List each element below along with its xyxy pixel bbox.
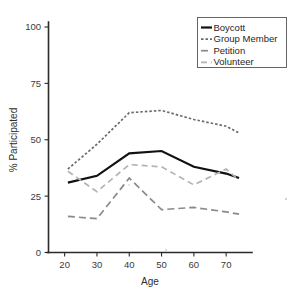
legend-label: Group Member: [214, 33, 278, 44]
x-axis-ticks: 203040506070: [59, 253, 231, 271]
y-axis-title: % Participated: [8, 108, 19, 172]
chart-figure: 0255075100 203040506070 Age % Participat…: [0, 0, 301, 303]
y-tick-label: 50: [30, 134, 41, 145]
x-tick-label: 30: [92, 259, 103, 270]
scan-speck: [285, 198, 287, 200]
scan-speck: [165, 249, 167, 251]
y-axis-ticks: 0255075100: [25, 21, 48, 258]
y-tick-label: 0: [36, 247, 41, 258]
legend-label: Petition: [214, 45, 246, 56]
x-tick-label: 50: [156, 259, 167, 270]
x-axis-title: Age: [141, 276, 159, 287]
y-tick-label: 75: [30, 78, 41, 89]
x-tick-label: 20: [59, 259, 70, 270]
y-tick-label: 25: [30, 191, 41, 202]
x-tick-label: 60: [189, 259, 200, 270]
chart-legend: BoycottGroup MemberPetitionVolunteer: [198, 18, 287, 68]
line-chart: 0255075100 203040506070 Age % Participat…: [0, 0, 301, 303]
x-tick-label: 70: [221, 259, 232, 270]
legend-label: Volunteer: [214, 56, 254, 67]
series-line-group-member: [68, 110, 239, 169]
scan-speck: [128, 184, 130, 186]
data-series-group: [68, 110, 239, 218]
y-tick-label: 100: [25, 21, 41, 32]
legend-label: Boycott: [214, 22, 246, 33]
x-tick-label: 40: [124, 259, 135, 270]
series-line-petition: [68, 178, 239, 219]
series-line-volunteer: [68, 165, 239, 192]
